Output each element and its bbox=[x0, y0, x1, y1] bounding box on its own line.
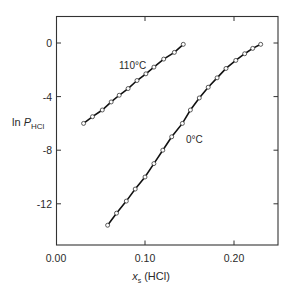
data-point-marker bbox=[170, 135, 174, 139]
x-tick-label: 0.20 bbox=[224, 252, 245, 264]
data-point-marker bbox=[181, 42, 185, 46]
data-point-marker bbox=[126, 87, 130, 91]
y-tick-label: -8 bbox=[43, 144, 52, 156]
data-point-marker bbox=[143, 175, 147, 179]
data-point-marker bbox=[115, 211, 119, 215]
data-point-marker bbox=[206, 85, 210, 89]
data-point-marker bbox=[215, 76, 219, 80]
data-point-marker bbox=[188, 108, 192, 112]
x-axis-label: xs (HCl) bbox=[131, 270, 170, 284]
plot-frame bbox=[57, 17, 279, 246]
data-point-marker bbox=[100, 108, 104, 112]
data-point-marker bbox=[162, 57, 166, 61]
series-line bbox=[108, 44, 261, 225]
x-axis-ticks bbox=[145, 17, 234, 246]
data-point-marker bbox=[144, 72, 148, 76]
x-tick-label: 0.10 bbox=[135, 252, 156, 264]
series-label-0C: 0°C bbox=[186, 134, 203, 145]
chart: 0 -4 -8 -12 0.00 0.10 0.20 ln PHCl xs (H… bbox=[0, 0, 293, 291]
data-point-marker bbox=[251, 46, 255, 50]
y-tick-label: -12 bbox=[37, 198, 52, 210]
series-110C bbox=[82, 42, 186, 125]
data-point-marker bbox=[90, 115, 94, 119]
y-tick-label: 0 bbox=[46, 37, 52, 49]
data-point-marker bbox=[82, 121, 86, 125]
data-point-marker bbox=[106, 223, 110, 227]
data-point-marker bbox=[172, 50, 176, 54]
data-point-marker bbox=[135, 79, 139, 83]
data-point-marker bbox=[152, 65, 156, 69]
y-axis-label: ln PHCl bbox=[12, 116, 45, 131]
data-point-marker bbox=[180, 121, 184, 125]
y-tick-label: -4 bbox=[43, 91, 52, 103]
series-label-110C: 110°C bbox=[119, 60, 146, 71]
data-point-marker bbox=[133, 187, 137, 191]
data-point-marker bbox=[124, 199, 128, 203]
series-line bbox=[84, 44, 184, 123]
x-tick-label: 0.00 bbox=[46, 252, 67, 264]
data-point-marker bbox=[243, 52, 247, 56]
data-point-marker bbox=[224, 66, 228, 70]
data-point-marker bbox=[109, 100, 113, 104]
data-point-marker bbox=[234, 58, 238, 62]
data-point-marker bbox=[259, 42, 263, 46]
data-point-marker bbox=[117, 93, 121, 97]
data-point-marker bbox=[197, 96, 201, 100]
data-point-marker bbox=[161, 148, 165, 152]
y-axis-ticks bbox=[57, 43, 279, 204]
data-point-marker bbox=[152, 162, 156, 166]
